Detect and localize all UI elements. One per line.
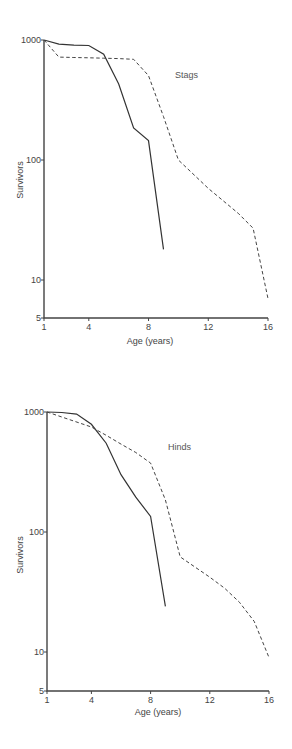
hinds-solid-line [47,412,165,606]
survivorship-figure: Stags Age (years) Survivors 510100100014… [0,0,292,749]
hinds-x-tick-label: 8 [148,695,153,705]
stags-y-tick-label: 100 [26,155,41,165]
stags-x-tick-label: 4 [86,322,91,332]
hinds-panel-label: Hinds [168,442,192,452]
hinds-x-axis-title: Age (years) [135,707,182,717]
hinds-x-tick-label: 1 [44,695,49,705]
hinds-y-tick-label: 10 [34,647,44,657]
stags-y-tick-label: 5 [36,313,41,323]
stags-x-tick-label: 12 [203,322,213,332]
stags-y-tick-label: 10 [31,275,41,285]
hinds-y-axis-title: Survivors [15,536,25,574]
stags-axes [44,40,268,318]
stags-y-tick-label: 1000 [21,35,41,45]
hinds-axes [47,412,269,691]
stags-y-axis-title: Survivors [15,161,25,199]
stags-panel-label: Stags [175,70,199,80]
stags-solid-line [44,40,164,249]
stags-chart: Stags Age (years) Survivors 510100100014… [15,35,273,346]
hinds-y-tick-label: 100 [29,527,44,537]
stags-x-tick-label: 16 [263,322,273,332]
hinds-dashed-line [47,412,269,658]
stags-x-tick-label: 1 [41,322,46,332]
hinds-y-tick-label: 5 [39,686,44,696]
hinds-chart: Hinds Age (years) Survivors 510100100014… [15,407,274,717]
hinds-x-tick-label: 12 [205,695,215,705]
stags-dashed-line [44,40,268,299]
stags-x-axis-title: Age (years) [127,336,174,346]
hinds-y-tick-label: 1000 [24,407,44,417]
hinds-x-tick-label: 16 [264,695,274,705]
stags-x-tick-label: 8 [146,322,151,332]
hinds-x-tick-label: 4 [89,695,94,705]
